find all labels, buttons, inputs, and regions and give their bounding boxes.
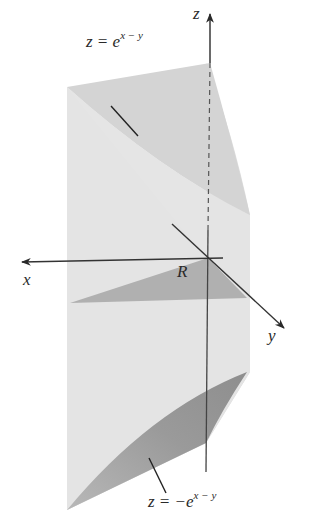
y-axis-label: y [268,326,276,346]
diagram-canvas [0,0,309,532]
z-axis-label: z [193,4,200,24]
3d-solid-diagram: z = ex − y z = −ex − y R x y z [0,0,309,532]
bottom-surface-label: z = −ex − y [148,490,216,512]
top-surface-label: z = ex − y [86,30,143,52]
x-axis-label: x [23,270,31,290]
region-R-label: R [177,262,187,282]
